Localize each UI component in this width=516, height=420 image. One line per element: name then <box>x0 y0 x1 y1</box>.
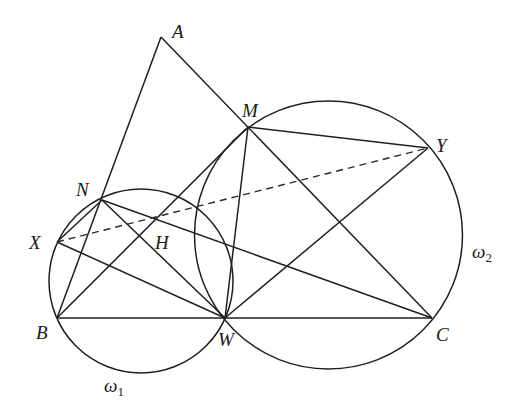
label-omega2: ω2 <box>472 241 492 265</box>
segment-MY <box>248 127 428 148</box>
geometry-diagram: A M Y N X H B W C ω1 ω2 <box>0 0 516 420</box>
label-omega1: ω1 <box>104 375 124 399</box>
segment-MB <box>57 127 248 318</box>
label-A: A <box>170 21 184 42</box>
label-M: M <box>241 100 259 121</box>
label-Y: Y <box>436 135 449 156</box>
label-H: H <box>154 232 170 253</box>
circle-omega1 <box>49 189 233 373</box>
label-X: X <box>28 232 42 253</box>
label-B: B <box>36 322 48 343</box>
segment-XW <box>57 242 225 318</box>
segment-NX <box>57 200 102 242</box>
segment-NW <box>102 200 225 318</box>
label-C: C <box>436 324 449 345</box>
label-N: N <box>75 179 90 200</box>
segment-MW <box>225 127 248 318</box>
segment-AB <box>57 37 161 318</box>
label-W: W <box>218 329 236 350</box>
